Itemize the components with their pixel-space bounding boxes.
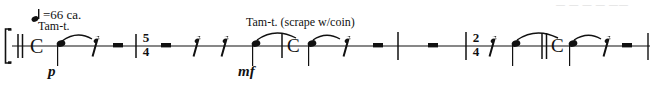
note-3 <box>307 35 340 66</box>
note-5 <box>568 35 601 66</box>
rest-measure-5 <box>622 43 632 47</box>
system-bracket-icon <box>6 29 12 63</box>
music-score-excerpt: — — — — —— =66 ca. Tam-t. Tam-t. (scrape… <box>0 0 657 89</box>
tie-2 <box>257 33 296 40</box>
tie-5 <box>574 35 601 40</box>
note-1 <box>56 35 92 66</box>
tie-3 <box>313 35 340 40</box>
staff-graphics <box>0 0 657 89</box>
rest-measure-1 <box>113 43 123 47</box>
note-2 <box>251 33 296 66</box>
rest-measure-4 <box>428 43 438 47</box>
rest-measure-2 <box>161 43 171 47</box>
tie-1 <box>62 35 92 41</box>
tie-4 <box>517 33 558 40</box>
rest-measure-3 <box>373 43 383 47</box>
note-4 <box>511 33 558 66</box>
